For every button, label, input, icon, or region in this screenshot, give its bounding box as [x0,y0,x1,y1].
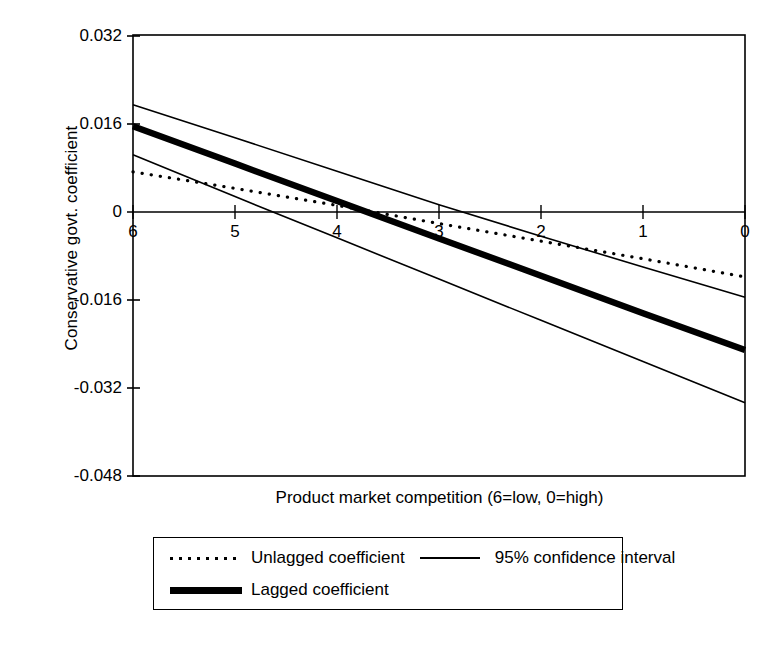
legend-label-unlagged: Unlagged coefficient [242,548,414,568]
series-group [133,105,745,403]
dotted-line-swatch-icon [170,551,242,565]
legend-label-lagged: Lagged coefficient [242,580,398,600]
legend-label-confidence-interval: 95% confidence interval [486,548,685,568]
thick-line-swatch-icon [170,583,242,597]
chart-legend: Unlagged coefficient 95% confidence inte… [153,537,623,610]
legend-row-top: Unlagged coefficient 95% confidence inte… [170,546,684,570]
thin-line-swatch-icon [414,551,486,565]
series-unlagged-coefficient [133,172,745,277]
legend-row-bottom: Lagged coefficient [170,578,398,602]
plot-frame [133,35,745,476]
figure-container: Conservative govt. coefficient 0.032 0.0… [0,0,769,650]
series-95-confidence-interval-lower [133,155,745,403]
plot-border [133,35,745,476]
series-lagged-coefficient [133,126,745,350]
series-95-confidence-interval-upper [133,105,745,298]
